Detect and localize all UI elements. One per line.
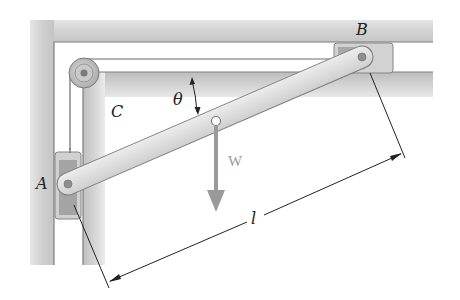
label-b: B: [355, 20, 368, 39]
rod-slider-diagram: W θ B A C l: [0, 0, 460, 300]
outer-left-rail: [30, 20, 54, 265]
dimension-arrowhead-left-icon: [109, 274, 121, 282]
outer-top-rail: [30, 20, 433, 42]
theta-label: θ: [173, 90, 183, 109]
length-label: l: [251, 209, 256, 228]
center-of-mass-pin: [212, 117, 221, 126]
weight-label: W: [228, 153, 243, 169]
interior-region: [105, 97, 433, 267]
pulley-axle: [81, 70, 88, 77]
pin-b: [358, 53, 366, 61]
pin-a: [64, 180, 72, 188]
pulley: [69, 58, 99, 88]
label-c: C: [111, 102, 123, 121]
label-a: A: [34, 174, 48, 193]
